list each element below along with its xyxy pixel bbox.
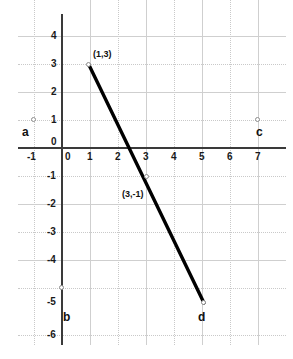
segment-endpoint-marker-upper xyxy=(86,62,91,67)
point-marker-b xyxy=(59,285,64,290)
segment-endpoint-marker-lower xyxy=(201,300,206,305)
point-label-d: d xyxy=(198,311,205,323)
coordinate-plane-graph: -1 0 1 2 3 4 5 6 7 4 3 2 1 0 -1 -2 -3 -4… xyxy=(0,0,293,359)
line-segment xyxy=(89,65,204,303)
point-label-c: c xyxy=(256,126,263,138)
line-segment-layer xyxy=(0,0,293,359)
point-label-a: a xyxy=(22,126,29,138)
annotation-point-1-3: (1,3) xyxy=(93,50,112,59)
point-label-b: b xyxy=(63,311,70,323)
segment-midpoint-marker xyxy=(144,174,149,179)
point-marker-c xyxy=(255,117,260,122)
annotation-point-3-neg1: (3,-1) xyxy=(122,190,144,199)
point-marker-a xyxy=(31,117,36,122)
